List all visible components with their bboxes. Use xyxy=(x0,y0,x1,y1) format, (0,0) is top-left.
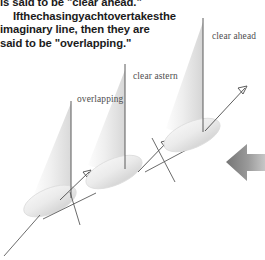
body-line-2: imaginary line, then they are xyxy=(0,23,166,37)
body-line-1: If the chasing yacht overtakes the xyxy=(0,10,166,24)
body-word: yacht xyxy=(78,10,107,24)
track-line xyxy=(4,215,40,256)
body-word: overtakes xyxy=(107,10,159,24)
sail-shape xyxy=(88,70,125,167)
body-text: is said to be "clear ahead." If the chas… xyxy=(0,0,166,50)
label-clear-astern: clear astern xyxy=(133,71,178,81)
body-word: If xyxy=(13,10,20,24)
body-word: the xyxy=(20,10,37,24)
body-word: the xyxy=(159,10,176,24)
heading-arrow xyxy=(205,86,247,131)
yacht-overlapping xyxy=(4,101,96,256)
label-overlapping: overlapping xyxy=(77,94,123,104)
wind-direction-arrow xyxy=(226,144,265,181)
body-line-0: is said to be "clear ahead." xyxy=(0,0,166,10)
label-clear-ahead: clear ahead xyxy=(212,31,256,41)
sail-shape xyxy=(34,103,71,195)
diagram-page: clear ahead clear astern overlapping is … xyxy=(0,0,265,260)
body-word: chasing xyxy=(36,10,78,24)
body-line-3: said to be "overlapping." xyxy=(0,37,166,51)
